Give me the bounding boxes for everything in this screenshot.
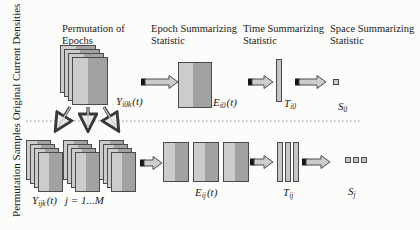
epoch-card [111,152,136,192]
label-s-original: S0 [338,100,347,114]
label-s-perm: Sj [348,185,356,199]
label-y-perm-range: j = 1...M [65,194,104,206]
label-t-original-sub: i0 [290,102,296,111]
permutation-arrow-down-icon [56,107,70,130]
column-header-permutation-of-epochs: Permutation of Epochs [62,23,134,46]
flow-arrow-right-icon [295,76,326,89]
label-e-original-base: E [213,96,220,108]
flow-arrow-right-icon [140,157,162,170]
space-statistic-square-perm-3 [361,157,367,163]
label-y-perm-sub: ijk [38,199,46,208]
label-e-perm: Eij(t) [195,186,217,200]
row-label-original-current-densities: Original Current Densities [10,4,22,121]
epoch-statistic-rect-perm-2 [193,142,219,182]
flow-arrow-right-icon [248,76,273,89]
space-statistic-square-perm-2 [353,157,359,163]
permutation-arrow-down-icon [104,107,118,130]
column-header-time-summarizing-statistic: Time Summarizing Statistic [243,23,328,46]
label-t-perm: Tij [283,186,293,200]
label-e-perm-base: E [195,186,202,198]
epoch-statistic-rect-perm-1 [163,142,189,182]
column-header-epoch-summarizing-statistic: Epoch Summarizing Statistic [151,23,241,46]
figure-permutation-pipeline: Permutation of Epochs Epoch Summarizing … [0,0,420,230]
epoch-card [75,152,100,192]
label-e-perm-arg: (t) [207,186,217,198]
label-y-original-sub: i0k [122,100,131,109]
flow-arrow-right-icon [141,76,178,89]
label-t-original: Ti0 [284,97,296,111]
label-y-original: Yi0k(t) [116,95,143,109]
flow-arrow-right-icon [250,156,273,169]
label-s-perm-sub: j [354,190,356,199]
time-statistic-bar-perm-2 [285,142,291,182]
epoch-statistic-rect-original [178,62,212,108]
label-e-perm-sub: ij [202,191,206,200]
row-label-permutation-samples: Permutation Samples [10,123,22,217]
space-statistic-square-perm-1 [345,157,351,163]
column-header-space-summarizing-statistic: Space Summarizing Statistic [330,23,420,46]
label-e-original-arg: (t) [227,96,237,108]
space-statistic-square-original [333,79,339,85]
label-s-original-sub: 0 [344,105,348,114]
epoch-statistic-rect-perm-3 [223,142,249,182]
epoch-card [38,152,63,192]
epoch-card [72,57,108,105]
label-y-perm-arg: (t) [47,194,57,206]
label-e-original: Ei0(t) [213,96,237,110]
label-e-original-sub: i0 [220,101,226,110]
label-y-perm: Yijk(t)j = 1...M [32,194,104,208]
time-statistic-bar-original [276,59,282,102]
flow-arrow-right-icon [302,156,330,169]
time-statistic-bar-perm-3 [293,142,299,182]
label-t-perm-sub: ij [289,191,293,200]
time-statistic-bar-perm-1 [277,142,283,182]
label-y-original-arg: (t) [132,95,142,107]
